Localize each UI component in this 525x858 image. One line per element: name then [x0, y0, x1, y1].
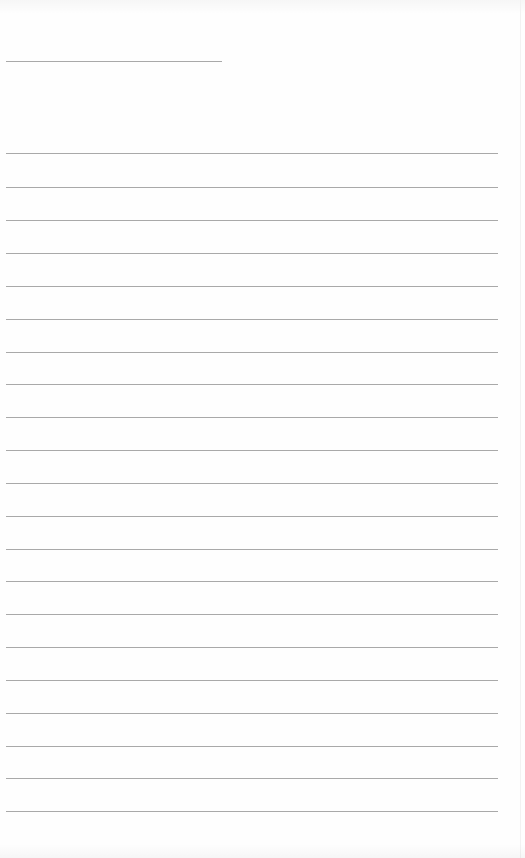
ruled-line-8 [6, 384, 498, 385]
ruled-line-14 [6, 581, 498, 582]
ruled-line-20 [6, 778, 498, 779]
ruled-line-15 [6, 614, 498, 615]
ruled-line-11 [6, 483, 498, 484]
top-bleed-through [0, 0, 525, 14]
ruled-line-7 [6, 352, 498, 353]
ruled-line-18 [6, 713, 498, 714]
ruled-line-21 [6, 811, 498, 812]
ruled-line-9 [6, 417, 498, 418]
ruled-line-2 [6, 187, 498, 188]
ruled-line-16 [6, 647, 498, 648]
header-name-line [6, 61, 222, 62]
ruled-line-17 [6, 680, 498, 681]
ruled-line-4 [6, 253, 498, 254]
ruled-line-3 [6, 220, 498, 221]
ruled-line-6 [6, 319, 498, 320]
ruled-line-13 [6, 549, 498, 550]
lined-paper-sheet [0, 0, 525, 858]
ruled-line-12 [6, 516, 498, 517]
ruled-line-5 [6, 286, 498, 287]
ruled-line-19 [6, 746, 498, 747]
ruled-line-1 [6, 153, 498, 154]
ruled-line-10 [6, 450, 498, 451]
page-edge [520, 0, 521, 858]
bottom-bleed-through [0, 844, 525, 858]
